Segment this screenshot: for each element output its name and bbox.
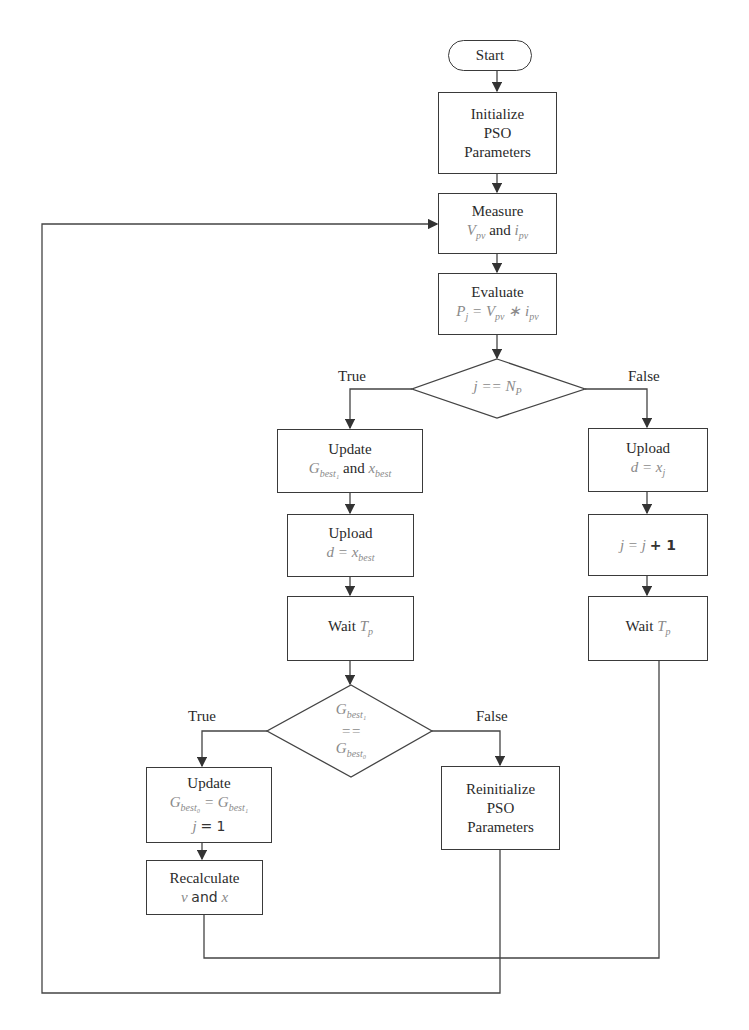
initialize-line3: Parameters <box>464 143 531 162</box>
recalculate-box: Recalculate v and x <box>146 860 263 915</box>
start-label: Start <box>476 46 504 65</box>
wait-right-text: Wait Tp <box>625 617 670 641</box>
evaluate-box: Evaluate Pj = Vpv ∗ ipv <box>438 273 557 335</box>
decision-gbest-equal: Gbest₁ == Gbest₀ <box>300 697 402 765</box>
reinitialize-pso-box: Reinitialize PSO Parameters <box>441 766 560 850</box>
reinit-line2: PSO <box>487 799 515 818</box>
initialize-line2: PSO <box>484 124 512 143</box>
measure-vars: Vpv and ipv <box>467 221 528 245</box>
measure-title: Measure <box>472 202 524 221</box>
recalculate-vars: v and x <box>181 888 228 907</box>
increment-j-box: j = j + 1 <box>588 514 708 576</box>
increment-expr: j = j + 1 <box>620 536 676 555</box>
upload-xj-expr: d = xj <box>631 458 666 482</box>
update-gbest1-vars: Gbest₁ and xbest <box>309 459 391 483</box>
measure-box: Measure Vpv and ipv <box>438 193 557 254</box>
decision-j-equals-np: j == NP <box>440 374 555 404</box>
upload-xbest-expr: d = xbest <box>327 543 375 567</box>
wait-tp-right-box: Wait Tp <box>588 596 708 661</box>
decision2-false-label: False <box>476 708 508 725</box>
evaluate-title: Evaluate <box>471 283 523 302</box>
evaluate-expression: Pj = Vpv ∗ ipv <box>456 302 538 326</box>
update-gbest0-title: Update <box>187 774 230 793</box>
initialize-line1: Initialize <box>471 105 524 124</box>
update-gbest0-expr: Gbest₀ = Gbest₁ <box>170 793 249 817</box>
upload-xj-box: Upload d = xj <box>588 428 708 492</box>
update-gbest0-reset: j = 1 <box>192 817 225 836</box>
upload-xbest-box: Upload d = xbest <box>287 514 414 577</box>
wait-left-text: Wait Tp <box>328 617 373 641</box>
update-gbest1-box: Update Gbest₁ and xbest <box>277 429 423 493</box>
update-gbest0-box: Update Gbest₀ = Gbest₁ j = 1 <box>146 767 272 843</box>
initialize-pso-box: Initialize PSO Parameters <box>438 92 557 174</box>
upload-xbest-title: Upload <box>328 524 372 543</box>
decision2-true-label: True <box>188 708 216 725</box>
update-gbest1-title: Update <box>328 440 371 459</box>
wait-tp-left-box: Wait Tp <box>287 596 414 661</box>
start-terminal: Start <box>448 40 532 71</box>
decision1-true-label: True <box>338 368 366 385</box>
decision1-false-label: False <box>628 368 660 385</box>
upload-xj-title: Upload <box>626 439 670 458</box>
recalculate-title: Recalculate <box>170 869 240 888</box>
reinit-line1: Reinitialize <box>466 780 535 799</box>
reinit-line3: Parameters <box>467 818 534 837</box>
